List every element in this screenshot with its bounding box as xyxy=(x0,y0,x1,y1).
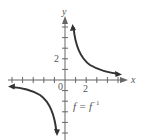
y-axis-arrow-icon xyxy=(62,16,68,24)
graph-canvas xyxy=(0,0,143,140)
function-label: f = f−1 xyxy=(73,98,100,111)
origin-label: 0 xyxy=(58,82,63,92)
curve-arrow-left-icon xyxy=(8,84,15,90)
y-axis-label: y xyxy=(62,7,66,17)
x-tick-label-2: 2 xyxy=(83,84,88,94)
function-label-superscript: −1 xyxy=(92,99,99,107)
x-axis-arrow-icon xyxy=(120,77,128,83)
function-label-base: f = f xyxy=(73,100,92,112)
curve-arrow-down-icon xyxy=(54,129,60,136)
curve-branch-negative xyxy=(11,87,57,133)
curve-branch-positive xyxy=(74,27,120,74)
curve-arrow-up-icon xyxy=(70,24,76,31)
y-tick-label-2: 2 xyxy=(54,54,59,64)
curve-arrow-right-icon xyxy=(115,71,122,77)
x-axis-label: x xyxy=(131,75,135,85)
